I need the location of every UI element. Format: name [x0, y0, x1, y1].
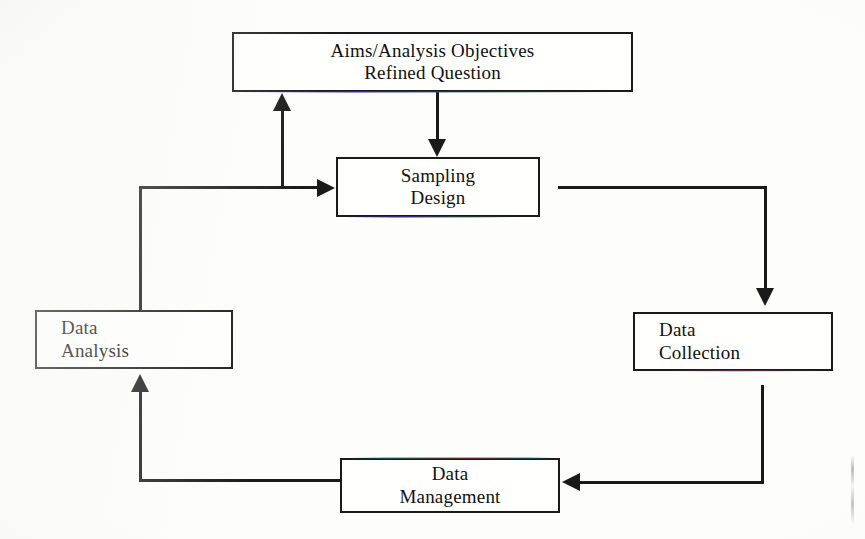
edge-analysis-to-sampling-arrowhead [317, 179, 335, 197]
node-data-collection-line2: Collection [659, 342, 740, 363]
node-data-analysis-line1: Data [61, 317, 98, 338]
node-aims-label: Aims/Analysis Objectives Refined Questio… [234, 40, 631, 85]
edge-aims-to-sampling-stem [436, 92, 439, 142]
edge-analysis-to-sampling-vertical [139, 186, 142, 312]
edge-sampling-to-collection-horizontal [558, 186, 767, 189]
node-data-management[interactable]: Data Management [340, 458, 560, 513]
node-data-analysis[interactable]: Data Analysis [35, 310, 233, 369]
node-sampling-design-label: Sampling Design [338, 165, 538, 210]
edge-analysis-to-sampling-horizontal [139, 186, 319, 189]
node-data-management-line2: Management [399, 486, 500, 507]
edge-collection-to-management-arrowhead [562, 473, 580, 491]
edge-sampling-to-collection-vertical [764, 186, 767, 290]
node-data-analysis-line2: Analysis [61, 340, 129, 361]
diagram-canvas: Aims/Analysis Objectives Refined Questio… [0, 0, 865, 539]
node-data-management-line1: Data [432, 463, 469, 484]
node-data-analysis-label: Data Analysis [37, 317, 231, 362]
edge-branch-to-aims-arrowhead [273, 93, 291, 111]
edge-management-to-analysis-horizontal [139, 479, 340, 482]
edge-aims-to-sampling-arrowhead [428, 139, 446, 157]
node-sampling-design-line1: Sampling [401, 165, 475, 186]
node-aims-line2: Refined Question [364, 62, 501, 83]
node-aims-analysis-objectives[interactable]: Aims/Analysis Objectives Refined Questio… [232, 32, 633, 92]
node-aims-line1: Aims/Analysis Objectives [331, 40, 535, 61]
edge-collection-to-management-vertical [761, 385, 764, 483]
edge-management-to-analysis-vertical [139, 392, 142, 481]
edge-collection-to-management-horizontal [580, 481, 764, 484]
node-data-collection[interactable]: Data Collection [633, 312, 833, 371]
scan-edge-artifact [851, 455, 854, 525]
node-data-collection-label: Data Collection [635, 319, 831, 364]
edge-sampling-to-collection-arrowhead [756, 288, 774, 306]
node-sampling-design[interactable]: Sampling Design [336, 157, 540, 217]
edge-management-to-analysis-arrowhead [131, 374, 149, 392]
node-sampling-design-line2: Design [410, 187, 465, 208]
node-data-collection-line1: Data [659, 319, 696, 340]
node-data-management-label: Data Management [342, 463, 558, 508]
edge-branch-to-aims-vertical [281, 110, 284, 188]
